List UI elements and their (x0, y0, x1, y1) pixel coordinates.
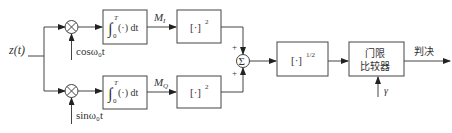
mq-label: M Q (153, 76, 168, 90)
decision-label: 判决 (414, 46, 434, 57)
svg-text:[·]: [·] (190, 86, 201, 98)
top-square-expression: [·] 2 (190, 18, 209, 33)
svg-text:2: 2 (205, 83, 209, 91)
block-diagram: z(t) cosω₀t sinω₀t ∫ T 0 (·) dt ∫ T 0 (·… (0, 0, 452, 133)
svg-text:(·) dt: (·) dt (118, 22, 138, 34)
top-integrator-expression: ∫ T 0 (·) dt (107, 14, 138, 40)
svg-text:1/2: 1/2 (306, 51, 315, 59)
bottom-integrator-expression: ∫ T 0 (·) dt (107, 79, 138, 105)
sqrt-expression: [·] 1/2 (291, 51, 315, 66)
svg-text:0: 0 (113, 32, 117, 40)
plus-top: + (232, 42, 237, 52)
sigma-symbol: Σ (239, 55, 245, 67)
svg-text:T: T (114, 79, 119, 87)
plus-bottom: + (232, 68, 237, 78)
input-label: z(t) (8, 43, 25, 57)
comparator-line2: 比较器 (360, 60, 390, 72)
sqrt-box (277, 42, 328, 76)
svg-text:Q: Q (163, 82, 168, 90)
sin-carrier-label: sinω₀t (76, 109, 103, 121)
bottom-square-expression: [·] 2 (190, 83, 209, 98)
svg-text:[·]: [·] (190, 21, 201, 33)
svg-text:0: 0 (113, 97, 117, 105)
svg-text:[·]: [·] (291, 54, 302, 66)
comparator-line1: 门限 (365, 47, 385, 59)
diagram-canvas: z(t) cosω₀t sinω₀t ∫ T 0 (·) dt ∫ T 0 (·… (0, 0, 452, 133)
svg-text:(·) dt: (·) dt (118, 87, 138, 99)
threshold-label: γ (384, 85, 389, 96)
svg-text:I: I (162, 17, 166, 25)
cos-carrier-label: cosω₀t (76, 45, 105, 57)
svg-text:T: T (114, 14, 119, 22)
mi-label: M I (153, 11, 166, 25)
svg-text:2: 2 (205, 18, 209, 26)
